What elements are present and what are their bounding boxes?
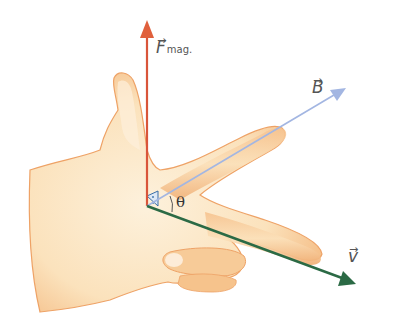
curled-finger-2 bbox=[178, 274, 236, 292]
force-label: →Fmag. bbox=[156, 38, 192, 57]
theta-label: θ bbox=[176, 193, 185, 211]
right-hand-rule-diagram: →Fmag. →B →v θ bbox=[0, 0, 403, 331]
diagram-canvas bbox=[0, 0, 403, 331]
fingernail bbox=[165, 253, 183, 267]
field-vector-arrow bbox=[147, 88, 346, 206]
field-label: →B bbox=[312, 78, 324, 97]
velocity-label: →v bbox=[348, 247, 358, 266]
index-finger bbox=[160, 128, 286, 200]
